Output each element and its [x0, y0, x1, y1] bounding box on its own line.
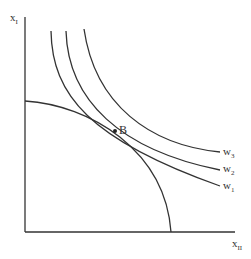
indifference-curve-w3	[84, 29, 220, 152]
point-b-marker	[113, 129, 117, 133]
curve-label-w3: w3	[223, 146, 234, 160]
curve-label-w2: w2	[223, 163, 234, 177]
production-frontier	[25, 101, 171, 232]
x-axis-label: xII	[232, 238, 242, 252]
point-b-label: B	[119, 124, 127, 136]
indifference-curve-w1	[51, 31, 220, 186]
curve-label-w1: w1	[223, 180, 234, 194]
y-axis-label: xI	[10, 12, 18, 26]
